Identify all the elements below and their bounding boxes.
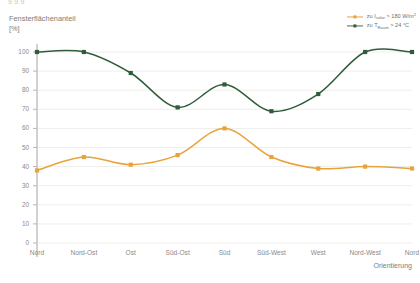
y-axis-tick-label: 0	[7, 239, 29, 246]
y-axis-tick-label: 10	[7, 220, 29, 227]
line-chart-plot	[0, 0, 420, 283]
y-axis-tick-label: 90	[7, 67, 29, 74]
y-axis-tick-label: 40	[7, 163, 29, 170]
x-axis-tick-label: Süd-Ost	[166, 249, 190, 256]
series-line	[37, 49, 412, 112]
series-line	[37, 128, 412, 170]
data-point-marker[interactable]	[129, 163, 133, 167]
data-point-marker[interactable]	[35, 168, 39, 172]
x-axis-tick-label: West	[311, 249, 326, 256]
data-point-marker[interactable]	[222, 82, 226, 86]
data-point-marker[interactable]	[129, 71, 133, 75]
y-axis-tick-label: 60	[7, 124, 29, 131]
data-point-marker[interactable]	[410, 50, 414, 54]
y-axis-tick-label: 50	[7, 144, 29, 151]
data-point-marker[interactable]	[35, 50, 39, 54]
data-point-marker[interactable]	[410, 166, 414, 170]
data-point-marker[interactable]	[363, 165, 367, 169]
y-axis-tick-label: 20	[7, 201, 29, 208]
y-axis-tick-label: 30	[7, 182, 29, 189]
y-axis-tick-label: 80	[7, 86, 29, 93]
x-axis-tick-label: Süd	[219, 249, 231, 256]
y-axis-tick-label: 70	[7, 105, 29, 112]
data-point-marker[interactable]	[176, 105, 180, 109]
x-axis-title: Orientierung	[373, 262, 412, 269]
data-point-marker[interactable]	[82, 50, 86, 54]
x-axis-tick-label: Nord	[30, 249, 44, 256]
x-axis-tick-label: Ost	[126, 249, 136, 256]
data-point-marker[interactable]	[82, 155, 86, 159]
data-point-marker[interactable]	[222, 126, 226, 130]
gridlines	[37, 52, 412, 243]
data-point-marker[interactable]	[269, 109, 273, 113]
x-axis-tick-label: Nord-Ost	[71, 249, 98, 256]
x-axis-tick-label: Nord	[405, 249, 419, 256]
data-point-marker[interactable]	[176, 153, 180, 157]
data-point-marker[interactable]	[316, 166, 320, 170]
data-point-marker[interactable]	[316, 92, 320, 96]
y-axis-tick-label: 100	[7, 48, 29, 55]
data-point-marker[interactable]	[363, 50, 367, 54]
x-axis-tick-label: Nord-West	[349, 249, 380, 256]
x-axis-tick-label: Süd-West	[257, 249, 286, 256]
data-series-group	[35, 49, 414, 173]
data-point-marker[interactable]	[269, 155, 273, 159]
